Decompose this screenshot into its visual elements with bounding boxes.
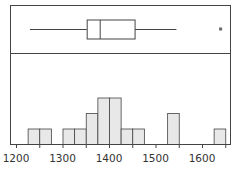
x-tick-label: 1500 xyxy=(142,152,169,164)
histogram-bar xyxy=(86,114,98,145)
histogram-bar xyxy=(133,129,145,145)
histogram-bar xyxy=(168,114,180,145)
iqr-box xyxy=(87,20,135,39)
boxplot-panel xyxy=(11,6,231,54)
x-axis-ticks: 12001300140015001600 xyxy=(3,144,226,164)
histogram-bar xyxy=(63,129,75,145)
boxplot xyxy=(30,20,222,39)
chart-canvas: 12001300140015001600 xyxy=(0,0,234,171)
histogram-bar xyxy=(98,98,110,145)
histogram-bar xyxy=(40,129,52,145)
histogram-bar xyxy=(75,129,87,145)
histogram-bar xyxy=(214,129,226,145)
histogram-bars xyxy=(28,98,226,145)
histogram-bar xyxy=(121,129,133,145)
x-tick-label: 1400 xyxy=(96,152,123,164)
x-tick-label: 1300 xyxy=(49,152,76,164)
histogram-bar xyxy=(28,129,40,145)
x-tick-label: 1600 xyxy=(189,152,216,164)
histogram-bar xyxy=(110,98,122,145)
histogram-panel: 12001300140015001600 xyxy=(3,54,231,165)
outlier-point xyxy=(219,28,222,31)
x-tick-label: 1200 xyxy=(3,152,30,164)
